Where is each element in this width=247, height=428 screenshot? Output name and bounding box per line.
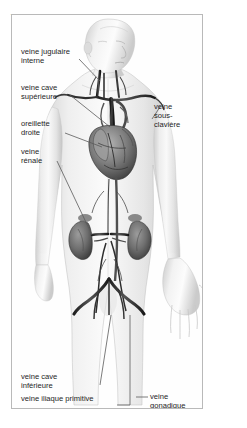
anatomy-artwork (12, 15, 203, 409)
open-hand (163, 258, 203, 339)
label-oreillette-droite: oreillette droite (21, 119, 50, 137)
label-veine-jugulaire-interne: veine jugulaire interne (21, 47, 70, 65)
superior-vena-cava (110, 99, 113, 129)
anatomy-illustration: VEINES CAVES (0, 0, 247, 428)
body-silhouette (35, 19, 204, 405)
label-veine-iliaque-primitive: veine iliaque primitive (21, 394, 94, 403)
label-veine-renale: veine rénale (21, 147, 42, 165)
label-veine-gonadique: veine gonadique (150, 392, 185, 409)
label-veine-sous-claviere: veine sous- clavière (154, 102, 180, 130)
label-veine-cave-inferieure: veine cave inférieure (21, 372, 57, 390)
label-veine-cave-superieure: veine cave supérieure (21, 83, 57, 101)
illustration-frame: veine jugulaire interne veine cave supér… (11, 14, 203, 409)
